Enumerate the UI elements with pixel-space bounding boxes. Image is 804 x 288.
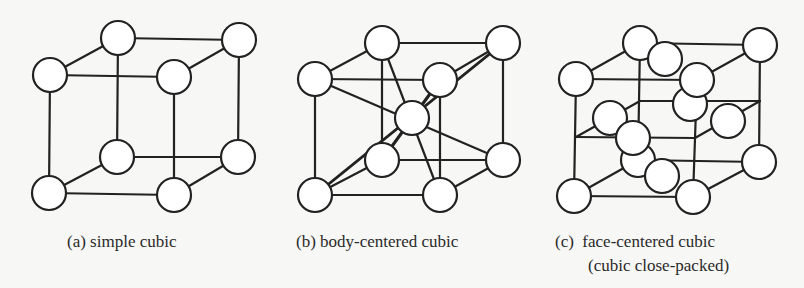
atom-corner: [365, 143, 399, 177]
atom-corner: [157, 178, 191, 212]
atom-corner: [423, 178, 457, 212]
atom-corner: [559, 62, 593, 96]
atom-corner: [557, 179, 591, 213]
atom-corner: [486, 143, 520, 177]
atom-corner: [365, 26, 399, 60]
atom-body-center: [395, 101, 429, 135]
face-centered-cubic-diagram: [557, 26, 777, 214]
atom-corner: [486, 26, 520, 60]
atom-corner: [32, 176, 66, 210]
atom-face-center: [711, 104, 745, 138]
simple-cubic-edges: [49, 38, 239, 195]
caption-cubic-close-packed: (cubic close-packed): [588, 257, 729, 274]
caption-simple-cubic: (a) simple cubic: [67, 233, 177, 250]
atom-corner: [298, 62, 332, 96]
atom-corner: [222, 23, 256, 57]
atom-corner: [33, 58, 67, 92]
atom-face-center: [645, 159, 679, 193]
caption-body-centered-cubic: (b) body-centered cubic: [296, 233, 458, 250]
atom-face-center: [616, 121, 650, 155]
atom-face-center: [648, 42, 682, 76]
atom-corner: [298, 178, 332, 212]
atom-corner: [676, 180, 710, 214]
atom-corner: [743, 28, 777, 62]
atom-corner: [221, 140, 255, 174]
atom-corner: [742, 145, 776, 179]
caption-face-centered-cubic: (c) face-centered cubic: [555, 233, 715, 250]
atom-corner: [680, 63, 714, 97]
atom-corner: [101, 21, 135, 55]
simple-cubic-diagram: [32, 21, 256, 212]
atom-corner: [157, 60, 191, 94]
body-centered-cubic-diagram: [298, 26, 520, 212]
atom-corner: [423, 63, 457, 97]
atom-corner: [100, 140, 134, 174]
